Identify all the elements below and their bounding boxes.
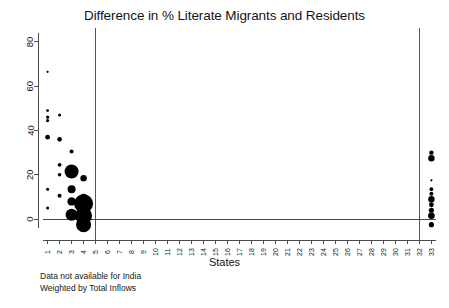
data-point bbox=[428, 196, 434, 202]
footnote-data-availability: Data not available for India bbox=[40, 271, 141, 283]
data-point bbox=[46, 207, 49, 210]
x-tick-label: 24 bbox=[320, 248, 327, 256]
x-tick-label: 21 bbox=[284, 248, 291, 256]
x-tick-label: 20 bbox=[272, 248, 279, 256]
data-point bbox=[58, 173, 62, 177]
y-tick-label: 60 bbox=[25, 81, 36, 92]
data-point bbox=[76, 217, 91, 232]
data-point bbox=[80, 175, 86, 181]
x-tick-label: 25 bbox=[332, 248, 339, 256]
x-tick-label: 13 bbox=[188, 248, 195, 256]
x-tick-label: 2 bbox=[56, 250, 63, 254]
data-point bbox=[46, 188, 49, 191]
footnote-weighting: Weighted by Total Inflows bbox=[40, 283, 141, 295]
x-tick-label: 12 bbox=[176, 248, 183, 256]
x-tick-label: 1 bbox=[44, 250, 51, 254]
data-point bbox=[430, 187, 434, 191]
data-point bbox=[429, 150, 433, 154]
x-tick-label: 17 bbox=[236, 248, 243, 256]
x-tick-label: 6 bbox=[104, 250, 111, 254]
data-point bbox=[429, 192, 433, 196]
x-tick-label: 11 bbox=[164, 248, 171, 255]
x-tick-label: 18 bbox=[248, 248, 255, 256]
x-axis-label: States bbox=[0, 256, 449, 268]
data-point bbox=[70, 150, 74, 154]
data-point bbox=[428, 213, 435, 220]
data-point bbox=[428, 155, 434, 161]
x-tick-label: 27 bbox=[356, 248, 363, 256]
data-point bbox=[45, 135, 50, 140]
data-point bbox=[68, 185, 76, 193]
data-point bbox=[57, 137, 62, 142]
data-point bbox=[58, 163, 62, 167]
x-tick-label: 28 bbox=[368, 248, 375, 256]
x-tick-label: 33 bbox=[428, 248, 435, 256]
x-tick-label: 5 bbox=[92, 250, 99, 254]
data-point bbox=[429, 222, 434, 227]
x-tick-label: 29 bbox=[380, 248, 387, 256]
data-point bbox=[58, 113, 61, 116]
y-tick-label: 80 bbox=[25, 37, 36, 48]
y-tick-label: 0 bbox=[25, 216, 36, 221]
data-point bbox=[429, 208, 434, 213]
data-point bbox=[47, 71, 49, 73]
data-point bbox=[65, 164, 79, 178]
x-tick-label: 15 bbox=[212, 248, 219, 256]
x-tick-label: 8 bbox=[128, 250, 135, 254]
x-tick-label: 9 bbox=[140, 250, 147, 254]
data-point bbox=[430, 179, 432, 181]
data-point bbox=[46, 116, 49, 119]
y-tick-label: 40 bbox=[25, 125, 36, 136]
x-tick-label: 32 bbox=[416, 248, 423, 256]
x-tick-label: 23 bbox=[308, 248, 315, 256]
x-tick-label: 7 bbox=[116, 250, 123, 254]
x-tick-label: 30 bbox=[392, 248, 399, 256]
data-point bbox=[46, 109, 49, 112]
y-tick-label: 20 bbox=[25, 170, 36, 181]
x-tick-label: 22 bbox=[296, 248, 303, 256]
x-tick-label: 26 bbox=[344, 248, 351, 256]
x-tick-label: 10 bbox=[152, 248, 159, 256]
data-point bbox=[429, 202, 434, 207]
x-tick-label: 3 bbox=[68, 250, 75, 254]
x-tick-label: 14 bbox=[200, 248, 207, 256]
x-tick-label: 31 bbox=[404, 248, 411, 256]
data-point bbox=[46, 119, 49, 122]
footnote-block: Data not available for India Weighted by… bbox=[40, 271, 141, 294]
x-tick-label: 4 bbox=[80, 250, 87, 254]
scatter-plot-figure: Difference in % Literate Migrants and Re… bbox=[0, 0, 449, 308]
x-tick-label: 19 bbox=[260, 248, 267, 256]
x-tick-label: 16 bbox=[224, 248, 231, 256]
data-point bbox=[58, 194, 62, 198]
